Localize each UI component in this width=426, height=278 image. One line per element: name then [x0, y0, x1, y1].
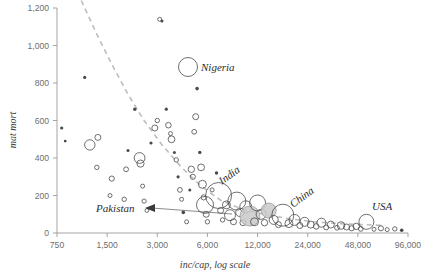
- data-point-bubble: [215, 171, 218, 174]
- china-label: China: [287, 184, 316, 210]
- data-point-bubble: [177, 175, 180, 178]
- x-tick-label: 24,000: [295, 240, 322, 250]
- x-tick-label: 48,000: [345, 240, 372, 250]
- data-point-bubble: [178, 188, 183, 193]
- data-point-bubble: [372, 227, 376, 231]
- data-point-bubble: [173, 151, 176, 154]
- data-point-bubble: [240, 206, 260, 226]
- x-tick-group: 7501,5003,0006,00012,00024,00048,00096,0…: [50, 233, 422, 250]
- y-axis-title: mat mort: [7, 112, 18, 149]
- y-tick-label: 400: [35, 153, 50, 163]
- pakistan-label: Pakistan: [95, 202, 135, 214]
- data-point-bubble: [275, 222, 281, 228]
- x-tick-label: 96,000: [395, 240, 422, 250]
- data-point-bubble: [313, 224, 319, 230]
- x-tick-label: 3,000: [147, 240, 169, 250]
- x-tick-label: 12,000: [244, 240, 271, 250]
- data-point-bubble: [195, 87, 199, 91]
- data-point-bubble: [141, 184, 145, 188]
- data-point-bubble: [220, 218, 224, 222]
- y-tick-group: 02004006008001,0001,200: [27, 3, 57, 238]
- data-point-bubble: [64, 140, 67, 143]
- data-point-bubble: [169, 132, 173, 136]
- data-point-bubble: [393, 227, 397, 231]
- y-tick-label: 200: [35, 191, 50, 201]
- data-point-bubble: [210, 188, 214, 192]
- data-point-bubble: [149, 141, 152, 144]
- data-point-bubble: [122, 197, 126, 201]
- y-tick-label: 800: [35, 78, 50, 88]
- bubble-scatter-chart: 02004006008001,0001,200 7501,5003,0006,0…: [0, 0, 426, 278]
- data-point-bubble: [127, 149, 130, 152]
- pakistan-leader-line: [152, 208, 232, 214]
- data-point-bubble: [95, 165, 99, 169]
- y-axis: 02004006008001,0001,200: [27, 3, 57, 238]
- data-point-bubble: [95, 134, 101, 140]
- data-point-bubble: [198, 151, 201, 154]
- x-tick-label: 1,500: [96, 240, 118, 250]
- data-point-bubble: [261, 220, 267, 226]
- data-point-bubble: [133, 108, 136, 111]
- data-point-bubble: [174, 158, 178, 162]
- data-point-bubble: [205, 220, 209, 224]
- data-point-bubble: [324, 225, 329, 230]
- data-points-group: [60, 17, 403, 232]
- data-point-bubble: [124, 167, 129, 172]
- data-point-bubble: [168, 136, 175, 143]
- data-point-bubble: [327, 221, 334, 228]
- data-point-bubble: [155, 118, 159, 122]
- chart-container: 02004006008001,0001,200 7501,5003,0006,0…: [0, 0, 426, 278]
- x-axis-title: inc/cap, log scale: [180, 259, 251, 270]
- data-point-bubble: [180, 197, 184, 201]
- data-point-bubble: [152, 125, 158, 131]
- y-tick-label: 1,200: [27, 3, 49, 13]
- data-point-bubble: [385, 228, 389, 232]
- y-tick-label: 1,000: [27, 41, 49, 51]
- data-point-bubble: [198, 164, 205, 171]
- data-point-bubble: [182, 211, 186, 215]
- data-point-bubble: [85, 140, 95, 150]
- data-point-bubble: [192, 129, 197, 134]
- data-point-bubble: [60, 126, 63, 129]
- annotation-nigeria: Nigeria: [179, 58, 236, 77]
- nigeria-label: Nigeria: [200, 61, 235, 73]
- annotation-pakistan: Pakistan: [95, 202, 232, 214]
- data-point-bubble: [269, 215, 278, 224]
- y-tick-label: 0: [44, 228, 49, 238]
- data-point-bubble: [272, 204, 294, 226]
- data-point-bubble: [206, 183, 232, 209]
- x-tick-label: 6,000: [197, 240, 219, 250]
- usa-label: USA: [372, 200, 392, 212]
- x-tick-label: 750: [50, 240, 65, 250]
- data-point-bubble: [109, 176, 114, 181]
- data-point-bubble: [378, 226, 383, 231]
- data-point-bubble: [161, 20, 164, 23]
- y-tick-label: 600: [35, 116, 50, 126]
- x-axis: 7501,5003,0006,00012,00024,00048,00096,0…: [50, 233, 422, 250]
- trend-line: [81, 1, 385, 226]
- data-point-bubble: [197, 196, 214, 213]
- data-point-bubble: [142, 199, 146, 203]
- india-label: India: [215, 163, 242, 187]
- pakistan-arrowhead: [145, 204, 155, 212]
- data-point-bubble: [83, 76, 86, 79]
- data-point-bubble: [108, 194, 112, 198]
- data-point-bubble: [400, 228, 404, 232]
- nigeria-bubble: [179, 58, 198, 77]
- data-point-bubble: [166, 122, 172, 128]
- data-point-bubble: [193, 114, 199, 120]
- data-point-bubble: [185, 220, 189, 224]
- data-point-bubble: [359, 214, 374, 229]
- data-point-bubble: [188, 166, 194, 172]
- data-point-bubble: [188, 188, 191, 191]
- data-point-bubble: [165, 108, 168, 111]
